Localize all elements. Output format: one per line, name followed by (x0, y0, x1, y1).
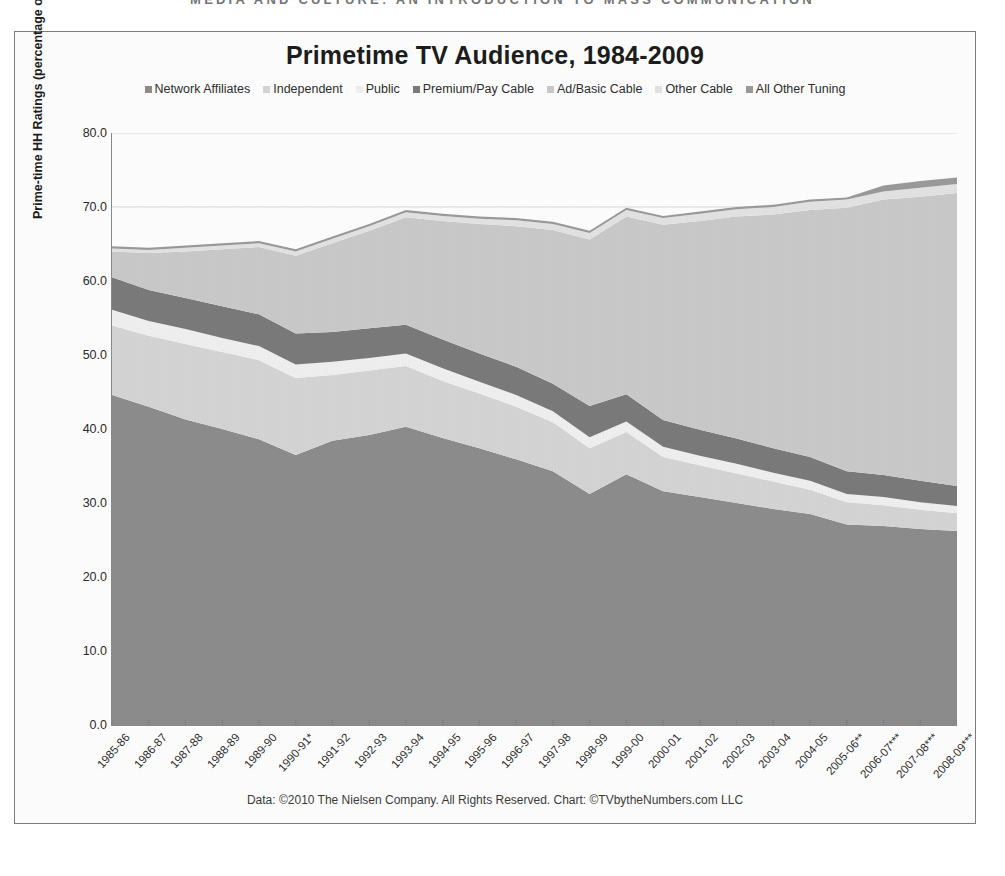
x-axis-tick-label: 2000-01 (646, 731, 683, 770)
legend-item[interactable]: All Other Tuning (746, 82, 846, 96)
figure-frame: Primetime TV Audience, 1984-2009 Network… (14, 31, 976, 824)
x-axis-tick-label: 1991-92 (315, 731, 352, 770)
chart-legend: Network AffiliatesIndependentPublicPremi… (15, 82, 975, 96)
x-axis-tick-label: 1992-93 (352, 731, 389, 770)
y-axis-tick-label: 80.0 (51, 126, 107, 140)
legend-item[interactable]: Independent (263, 82, 343, 96)
y-axis-tick-label: 60.0 (51, 274, 107, 288)
legend-swatch-icon (356, 86, 363, 93)
page-running-header: MEDIA AND CULTURE: AN INTRODUCTION TO MA… (0, 0, 1005, 12)
x-axis-tick-label: 2001-02 (683, 731, 720, 770)
x-axis-tick-label: 1988-89 (205, 731, 242, 770)
legend-item-label: Other Cable (665, 82, 732, 96)
x-axis-tick-label: 1996-97 (499, 731, 536, 770)
legend-item[interactable]: Premium/Pay Cable (413, 82, 534, 96)
y-axis-tick-label: 20.0 (51, 570, 107, 584)
y-axis-tick-label: 10.0 (51, 644, 107, 658)
x-axis-tick-label: 1985-86 (95, 731, 132, 770)
plot-wrapper: Prime-time HH Ratings (percentage of US … (15, 115, 977, 745)
legend-item-label: Public (366, 82, 400, 96)
stacked-area-svg (112, 133, 957, 725)
legend-swatch-icon (413, 86, 420, 93)
chart-title: Primetime TV Audience, 1984-2009 (15, 41, 975, 70)
x-axis-tick-label: 2002-03 (719, 731, 756, 770)
chart-source-note: Data: ©2010 The Nielsen Company. All Rig… (15, 793, 975, 807)
x-axis-tick-label: 2004-05 (793, 731, 830, 770)
x-axis-tick-label: 1990-91* (275, 731, 315, 774)
x-axis-tick-label: 2003-04 (756, 731, 793, 770)
legend-item-label: All Other Tuning (756, 82, 846, 96)
x-axis-tick-label: 1998-99 (572, 731, 609, 770)
legend-item-label: Independent (273, 82, 343, 96)
legend-swatch-icon (746, 86, 753, 93)
legend-item-label: Ad/Basic Cable (557, 82, 642, 96)
legend-item[interactable]: Other Cable (655, 82, 732, 96)
y-axis-tick-label: 30.0 (51, 496, 107, 510)
legend-item-label: Premium/Pay Cable (423, 82, 534, 96)
legend-item[interactable]: Ad/Basic Cable (547, 82, 642, 96)
y-axis-tick-label: 50.0 (51, 348, 107, 362)
x-axis-tick-label: 1987-88 (168, 731, 205, 770)
x-axis-tick-label: 1994-95 (425, 731, 462, 770)
y-axis-tick-label: 0.0 (51, 718, 107, 732)
x-axis-tick-label: 1999-00 (609, 731, 646, 770)
y-axis-tick-label: 40.0 (51, 422, 107, 436)
x-axis-tick-label: 1993-94 (389, 731, 426, 770)
legend-item-label: Network Affiliates (155, 82, 251, 96)
legend-swatch-icon (547, 86, 554, 93)
x-axis-tick-label: 1986-87 (131, 731, 168, 770)
x-axis-tick-label: 1997-98 (536, 731, 573, 770)
y-axis-title: Prime-time HH Ratings (percentage of US … (31, 0, 45, 235)
legend-item[interactable]: Public (356, 82, 400, 96)
x-axis-tick-labels: 1985-861986-871987-881988-891989-901990-… (111, 731, 956, 821)
legend-swatch-icon (263, 86, 270, 93)
x-axis-tick-label: 1989-90 (242, 731, 279, 770)
y-axis-tick-labels: 0.010.020.030.040.050.060.070.080.0 (51, 115, 107, 715)
legend-swatch-icon (655, 86, 662, 93)
y-axis-tick-label: 70.0 (51, 200, 107, 214)
legend-item[interactable]: Network Affiliates (145, 82, 251, 96)
plot-area (111, 133, 957, 726)
x-axis-tick-label: 1995-96 (462, 731, 499, 770)
legend-swatch-icon (145, 86, 152, 93)
